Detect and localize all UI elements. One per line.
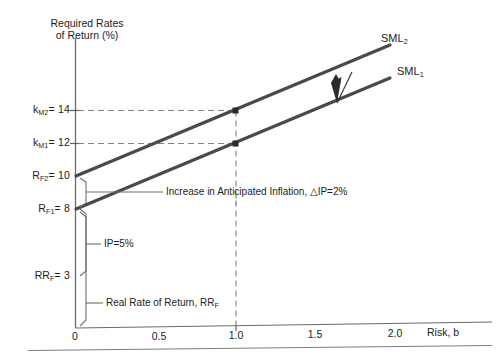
x-tick-label-2-0: 2.0 (382, 328, 408, 340)
y-tick-label-rf2: RF2= 10 (0, 170, 70, 182)
chart-canvas: Required Rates of Return (%) kM2= 14 kM1… (0, 0, 500, 361)
annotation-real-rate-main: Real Rate of Return, RR (106, 297, 214, 308)
y-tick-label-rf1: RF1= 8 (0, 203, 70, 215)
y-tick-label-km1: kM1= 12 (0, 137, 70, 149)
y-tick-km2-value: = 14 (48, 103, 70, 115)
y-tick-km2-sub: M2 (38, 108, 48, 117)
bracket-total-rf1 (80, 209, 103, 326)
y-tick-rf2-sub: F2 (40, 174, 49, 183)
y-tick-km1-sub: M1 (38, 141, 48, 150)
x-tick-label-0-5: 0.5 (146, 331, 172, 343)
y-tick-rrf-sub: F (50, 274, 55, 283)
y-tick-rrf-value: = 3 (55, 269, 71, 281)
x-axis-title: Risk, b (427, 327, 487, 339)
marker-km2 (233, 108, 239, 114)
y-tick-label-rrf: RRF= 3 (0, 270, 70, 282)
x-tick-label-1-0: 1.0 (223, 330, 249, 342)
series-label-sml2-main: SML (381, 32, 404, 44)
page-bottom-rule (28, 346, 492, 351)
series-label-sml1-main: SML (397, 65, 420, 77)
y-axis-title: Required Rates of Return (%) (28, 18, 146, 42)
y-axis-title-line1: Required Rates (28, 18, 146, 30)
y-tick-rf1-value: = 8 (55, 202, 71, 214)
annotation-inflation-shift: Increase in Anticipated Inflation, △IP=2… (166, 186, 347, 197)
marker-km1 (233, 141, 239, 147)
y-tick-rrf-main: RR (35, 269, 50, 281)
bracket-ip (80, 212, 101, 276)
series-label-sml1-sub: 1 (420, 70, 424, 79)
y-tick-rf1-sub: F1 (46, 207, 55, 216)
series-label-sml2-sub: 2 (404, 37, 408, 46)
series-label-sml1: SML1 (397, 65, 424, 77)
y-tick-rf2-main: R (32, 169, 40, 181)
series-label-sml2: SML2 (381, 32, 408, 44)
x-tick-label-0: 0 (63, 331, 87, 343)
sml-chart-graphic (0, 0, 500, 361)
y-tick-label-km2: kM2= 14 (0, 104, 70, 116)
x-tick-label-1-5: 1.5 (302, 329, 328, 341)
annotation-real-rate: Real Rate of Return, RRF (106, 297, 219, 308)
y-tick-rf2-value: = 10 (48, 169, 70, 181)
y-tick-km1-value: = 12 (48, 136, 70, 148)
y-axis-title-line2: of Return (%) (28, 30, 146, 42)
y-tick-rf1-main: R (38, 202, 46, 214)
annotation-real-rate-sub: F (214, 301, 218, 310)
data-markers (233, 108, 239, 147)
annotation-inflation-premium: IP=5% (104, 238, 134, 249)
